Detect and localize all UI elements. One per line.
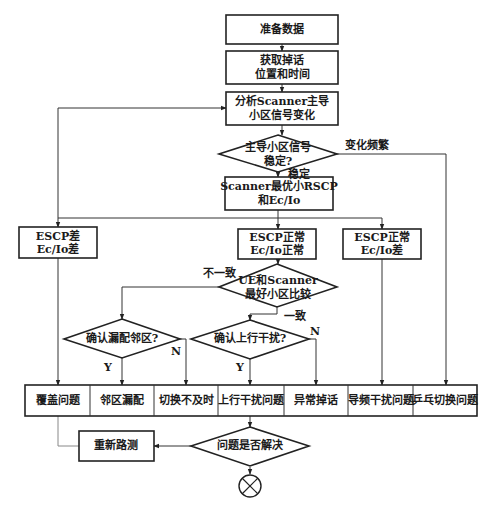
svg-text:ESCP正常: ESCP正常	[354, 230, 409, 244]
decision-missing-neighbor: 确认漏配邻区?	[64, 319, 180, 358]
svg-text:位置和时间: 位置和时间	[255, 67, 310, 81]
svg-text:准备数据: 准备数据	[260, 22, 304, 36]
label-n2: N	[310, 325, 320, 338]
svg-text:ESCP差: ESCP差	[36, 229, 80, 243]
result-late-handover: 切换不及时	[159, 393, 214, 407]
svg-text:小区信号变化: 小区信号变化	[248, 108, 315, 122]
end-circle-x-icon	[239, 475, 261, 497]
label-stable: 稳定	[288, 167, 310, 181]
svg-text:Ec/Io差: Ec/Io差	[361, 243, 404, 257]
result-missing-neighbor: 邻区漏配	[99, 393, 144, 407]
node-rerun-drive-test: 重新路测	[79, 431, 154, 461]
label-y1: Y	[103, 361, 112, 374]
svg-text:确认上行干扰?: 确认上行干扰?	[214, 331, 286, 345]
svg-text:最好小区比较: 最好小区比较	[245, 287, 311, 301]
svg-text:ESCP正常: ESCP正常	[249, 230, 304, 244]
svg-text:Ec/Io差: Ec/Io差	[37, 242, 80, 256]
svg-text:UE和Scanner: UE和Scanner	[238, 273, 318, 287]
node-escp-bad: ESCP差 Ec/Io差	[19, 227, 97, 258]
svg-text:获取掉话: 获取掉话	[260, 53, 304, 67]
result-abnormal-drop: 异常掉话	[294, 393, 338, 407]
svg-text:Ec/Io正常: Ec/Io正常	[250, 243, 304, 257]
svg-text:Scanner最优小RSCP: Scanner最优小RSCP	[220, 179, 338, 193]
node-escp-ok-ecio-ok: ESCP正常 Ec/Io正常	[238, 229, 316, 259]
result-pingpong-handover: 乒乓切换问题	[412, 393, 479, 407]
label-consistent: 一致	[284, 309, 307, 323]
svg-text:主导小区信号: 主导小区信号	[245, 140, 311, 154]
node-analyze-scanner: 分析Scanner主导 小区信号变化	[226, 92, 338, 125]
svg-text:分析Scanner主导: 分析Scanner主导	[235, 94, 330, 108]
node-prepare-data: 准备数据	[226, 15, 338, 44]
node-get-drop-location: 获取掉话 位置和时间	[226, 51, 338, 84]
svg-text:问题是否解决: 问题是否解决	[217, 438, 284, 452]
result-pilot-interference: 导频干扰问题	[348, 393, 415, 407]
label-n1: N	[171, 345, 181, 358]
node-scanner-best: Scanner最优小RSCP 和Ec/Io	[220, 177, 338, 210]
decision-uplink-interference: 确认上行干扰?	[191, 320, 309, 359]
node-escp-ok-ecio-bad: ESCP正常 Ec/Io差	[343, 229, 421, 259]
label-inconsistent: 不一致	[203, 266, 237, 280]
decision-signal-stable: 主导小区信号 稳定?	[219, 135, 337, 172]
results-row: 覆盖问题 邻区漏配 切换不及时 上行干扰问题 异常掉话 导频干扰问题 乒乓切换问…	[25, 385, 479, 416]
decision-ue-scanner-compare: UE和Scanner 最好小区比较	[219, 264, 337, 307]
svg-text:稳定?: 稳定?	[264, 154, 292, 168]
result-coverage: 覆盖问题	[36, 393, 81, 407]
flowchart: 准备数据 获取掉话 位置和时间 分析Scanner主导 小区信号变化 主导小区信…	[0, 0, 495, 516]
label-y2: Y	[235, 361, 244, 374]
svg-text:和Ec/Io: 和Ec/Io	[258, 193, 301, 207]
decision-problem-resolved: 问题是否解决	[191, 427, 309, 466]
svg-text:重新路测: 重新路测	[94, 438, 138, 452]
label-frequent-change: 变化频繁	[345, 138, 390, 152]
svg-text:确认漏配邻区?: 确认漏配邻区?	[86, 331, 158, 345]
result-uplink-interference: 上行干扰问题	[218, 393, 285, 407]
